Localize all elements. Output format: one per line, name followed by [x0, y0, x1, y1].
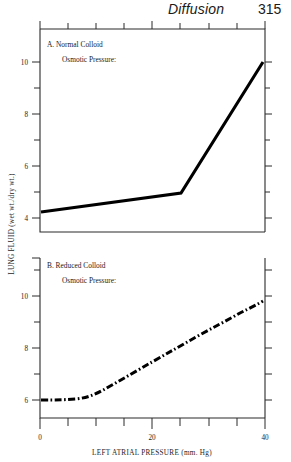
xtick-40: 40 [261, 434, 269, 442]
panel-a-left-ticks [32, 62, 40, 218]
panel-a-ytick-10: 10 [21, 59, 29, 67]
figure-svg: 10 8 6 4 A. Normal Colloid Osmotic Press… [0, 0, 291, 462]
panel-b-bottom-ticks [40, 418, 265, 429]
panel-a-ytick-8: 8 [24, 111, 28, 119]
x-axis-title: LEFT ATRIAL PRESSURE (mm. Hg) [92, 449, 212, 457]
panel-a-label-line1: A. Normal Colloid [47, 40, 103, 49]
panel-b-curve-reduced-colloid [41, 301, 263, 400]
panel-a-label-line2: Osmotic Pressure: [62, 55, 116, 64]
panel-b-label-line1: B. Reduced Colloid [47, 261, 106, 270]
panel-b-label-line2: Osmotic Pressure: [62, 276, 116, 285]
panel-a-curve-normal-colloid [41, 62, 263, 212]
panel-a-top-ticks [40, 21, 265, 29]
panel-a-axes: 10 8 6 4 [21, 21, 272, 232]
xtick-0: 0 [38, 434, 42, 442]
panel-b-right-ticks [265, 270, 272, 400]
panel-b-left-ticks [32, 258, 40, 400]
panel-a-right-ticks [265, 62, 272, 218]
xtick-20: 20 [148, 434, 156, 442]
y-axis-title: LUNG FLUID (wet wt./dry wt.) [8, 173, 16, 275]
panel-b-axes: 10 8 6 0 20 40 [21, 258, 272, 442]
figure-graphic: 10 8 6 4 A. Normal Colloid Osmotic Press… [0, 0, 291, 462]
panel-a-ytick-4: 4 [24, 215, 28, 223]
panel-a-ytick-6: 6 [24, 163, 28, 171]
panel-b-ytick-8: 8 [24, 345, 28, 353]
figure-page: Diffusion 315 [0, 0, 291, 462]
panel-b-ytick-10: 10 [21, 293, 29, 301]
panel-b-ytick-6: 6 [24, 397, 28, 405]
